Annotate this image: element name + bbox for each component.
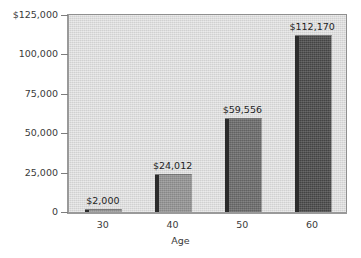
- y-tick-mark: [61, 54, 68, 55]
- bar: [225, 118, 262, 212]
- y-tick-mark: [61, 15, 68, 16]
- x-tick-label: 30: [79, 220, 127, 230]
- bar-value-label: $2,000: [58, 196, 148, 206]
- y-tick-label: 25,000: [0, 168, 58, 178]
- bar-face: [159, 175, 191, 212]
- y-tick-mark: [61, 173, 68, 174]
- bar-value-label: $112,170: [267, 22, 357, 32]
- y-tick-mark: [61, 94, 68, 95]
- x-axis-title: Age: [0, 236, 361, 246]
- x-tick-label: 50: [218, 220, 266, 230]
- bar-texture: [159, 175, 191, 212]
- bar-value-label: $24,012: [128, 161, 218, 171]
- y-tick-label: 100,000: [0, 49, 58, 59]
- y-tick-label: 0: [0, 207, 58, 217]
- y-tick-label: 75,000: [0, 89, 58, 99]
- bar-value-label: $59,556: [197, 105, 287, 115]
- y-tick-label: 50,000: [0, 128, 58, 138]
- y-tick-mark: [61, 212, 68, 213]
- x-tick-label: 60: [288, 220, 336, 230]
- y-tick-mark: [61, 133, 68, 134]
- x-tick-label: 40: [149, 220, 197, 230]
- bar-chart: $125,000100,00075,00050,00025,0000 30405…: [0, 0, 361, 258]
- bar-texture: [299, 36, 331, 212]
- bar: [155, 174, 192, 212]
- bar-face: [229, 119, 261, 212]
- y-axis-line: [67, 14, 69, 214]
- bar: [295, 35, 332, 212]
- bar-face: [299, 36, 331, 212]
- x-axis-line: [68, 212, 347, 214]
- bar-texture: [229, 119, 261, 212]
- y-tick-label: $125,000: [0, 10, 58, 20]
